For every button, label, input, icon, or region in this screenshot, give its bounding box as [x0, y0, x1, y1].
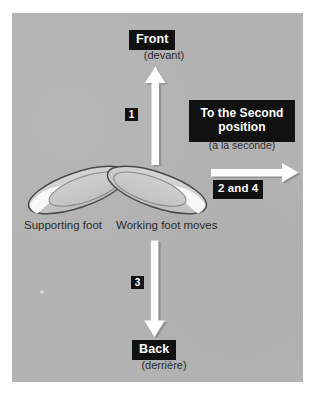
- step-number-1-chip: 1: [125, 108, 138, 121]
- second-position-french-label: (à la seconde): [189, 140, 295, 151]
- print-speck: [40, 290, 44, 294]
- front-french-text: (devant): [144, 49, 184, 61]
- second-position-line2: position: [218, 120, 265, 134]
- step-number-3-chip: 3: [131, 276, 144, 289]
- arrow-up-icon: [145, 67, 167, 167]
- front-french-label: (devant): [0, 50, 315, 61]
- step-number-2-and-4-chip: 2 and 4: [213, 180, 263, 199]
- front-label-chip: Front: [129, 30, 175, 50]
- supporting-foot-caption: Supporting foot: [24, 220, 102, 232]
- working-foot-shape: [102, 157, 212, 224]
- back-french-label: (derrière): [13, 360, 315, 371]
- figure-root: Front (devant) 1 To the Second position …: [0, 0, 315, 395]
- second-position-chip: To the Second position: [189, 100, 295, 142]
- arrow-down-icon: [144, 241, 167, 339]
- back-label-chip: Back: [132, 340, 176, 360]
- working-foot-caption: Working foot moves: [116, 220, 217, 232]
- second-position-line1: To the Second: [200, 106, 283, 120]
